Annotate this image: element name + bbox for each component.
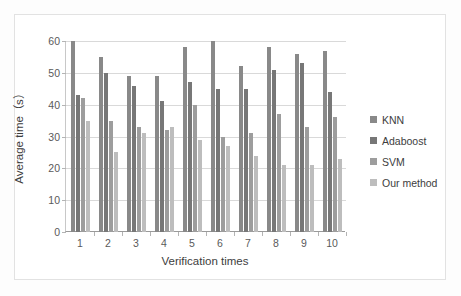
plot-area: 0102030405060 12345678910: [65, 41, 345, 232]
bar: [114, 152, 118, 232]
legend-swatch-icon: [370, 158, 377, 165]
bar: [216, 89, 220, 232]
y-tick-label: 40: [48, 99, 60, 111]
legend-label: KNN: [382, 114, 404, 126]
y-tick-label: 30: [48, 131, 60, 143]
x-tick-label: 9: [301, 237, 307, 249]
x-tick-mark: [346, 232, 347, 236]
x-tick-label: 3: [133, 237, 139, 249]
bar: [155, 76, 159, 232]
bar: [323, 51, 327, 232]
bar: [193, 105, 197, 232]
bar-group: [155, 41, 174, 232]
bar: [86, 121, 90, 232]
bar: [328, 92, 332, 232]
bar-group: [295, 41, 314, 232]
bar: [137, 127, 141, 232]
bar: [165, 130, 169, 232]
bar: [127, 76, 131, 232]
y-tick-label: 0: [54, 226, 60, 238]
bar: [295, 54, 299, 232]
legend-item[interactable]: KNN: [370, 109, 450, 130]
bar: [104, 73, 108, 232]
legend-swatch-icon: [370, 116, 377, 123]
x-tick-mark: [150, 232, 151, 236]
x-tick-label: 10: [326, 237, 338, 249]
legend-item[interactable]: Our method: [370, 172, 450, 193]
bar-group: [239, 41, 258, 232]
chart-figure: Average time（s） 0102030405060 1234567891…: [0, 0, 461, 296]
bar: [244, 89, 248, 232]
bar: [226, 146, 230, 232]
y-tick-label: 50: [48, 67, 60, 79]
bar: [277, 114, 281, 232]
bar: [188, 82, 192, 232]
chart-legend: KNNAdaboostSVMOur method: [370, 109, 450, 193]
bar: [300, 63, 304, 232]
x-tick-mark: [94, 232, 95, 236]
bar: [272, 70, 276, 232]
bar: [338, 159, 342, 232]
bar-group: [183, 41, 202, 232]
legend-swatch-icon: [370, 137, 377, 144]
x-tick-mark: [206, 232, 207, 236]
x-axis-title: Verification times: [65, 255, 345, 267]
y-tick-label: 20: [48, 162, 60, 174]
bar: [81, 98, 85, 232]
bars-layer: [66, 41, 346, 232]
x-tick-mark: [318, 232, 319, 236]
bar: [333, 117, 337, 232]
legend-item[interactable]: Adaboost: [370, 130, 450, 151]
bar: [170, 127, 174, 232]
x-tick-label: 4: [161, 237, 167, 249]
legend-item[interactable]: SVM: [370, 151, 450, 172]
x-tick-label: 5: [189, 237, 195, 249]
x-tick-mark: [178, 232, 179, 236]
bar-group: [267, 41, 286, 232]
bar-group: [71, 41, 90, 232]
x-tick-label: 8: [273, 237, 279, 249]
x-tick-mark: [122, 232, 123, 236]
x-tick-mark: [290, 232, 291, 236]
bar: [76, 95, 80, 232]
y-tick-label: 60: [48, 35, 60, 47]
bar: [198, 140, 202, 232]
bar: [254, 156, 258, 232]
bar: [211, 41, 215, 232]
x-tick-label: 1: [77, 237, 83, 249]
bar-group: [99, 41, 118, 232]
bar: [183, 47, 187, 232]
bar: [239, 66, 243, 232]
bar: [71, 41, 75, 232]
bar: [99, 57, 103, 232]
legend-label: Adaboost: [382, 135, 426, 147]
bar: [221, 137, 225, 233]
x-tick-label: 6: [217, 237, 223, 249]
legend-swatch-icon: [370, 179, 377, 186]
y-axis-title: Average time（s）: [10, 88, 26, 183]
bar-group: [127, 41, 146, 232]
bar: [249, 133, 253, 232]
bar: [160, 101, 164, 232]
y-tick-label: 10: [48, 194, 60, 206]
legend-label: Our method: [382, 177, 437, 189]
bar: [132, 86, 136, 232]
x-tick-label: 7: [245, 237, 251, 249]
bar: [282, 165, 286, 232]
bar: [305, 127, 309, 232]
bar: [142, 133, 146, 232]
bar: [267, 47, 271, 232]
y-tick-mark: [62, 232, 66, 233]
legend-label: SVM: [382, 156, 405, 168]
x-tick-mark: [262, 232, 263, 236]
bar-group: [323, 41, 342, 232]
x-tick-label: 2: [105, 237, 111, 249]
x-tick-mark: [234, 232, 235, 236]
bar: [310, 165, 314, 232]
bar-group: [211, 41, 230, 232]
bar: [109, 121, 113, 232]
